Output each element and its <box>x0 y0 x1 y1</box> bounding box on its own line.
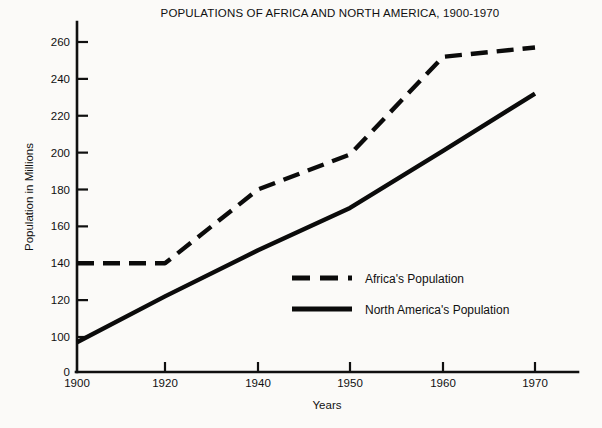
x-axis-ticks: 190019201940195019601970 <box>64 362 548 389</box>
x-tick-label-1940: 1940 <box>245 377 271 389</box>
y-tick-label-260: 260 <box>51 36 70 48</box>
x-tick-label-1960: 1960 <box>430 377 456 389</box>
y-tick-label-200: 200 <box>51 147 70 159</box>
x-tick-label-1970: 1970 <box>522 377 548 389</box>
series-line-africa <box>77 48 535 264</box>
y-tick-label-100: 100 <box>51 331 70 343</box>
y-tick-label-140: 140 <box>51 257 70 269</box>
y-tick-label-180: 180 <box>51 184 70 196</box>
population-line-chart: POPULATIONS OF AFRICA AND NORTH AMERICA,… <box>0 0 602 428</box>
chart-title: POPULATIONS OF AFRICA AND NORTH AMERICA,… <box>161 7 500 19</box>
y-tick-label-240: 240 <box>51 73 70 85</box>
legend-label-north-america: North America's Population <box>365 303 509 317</box>
x-tick-label-1950: 1950 <box>337 377 363 389</box>
chart-legend: Africa's PopulationNorth America's Popul… <box>292 272 509 317</box>
y-tick-label-160: 160 <box>51 220 70 232</box>
y-tick-label-120: 120 <box>51 294 70 306</box>
data-series-group <box>77 48 535 343</box>
y-axis-ticks: 0100120140160180200220240260 <box>51 36 88 378</box>
y-axis-label: Population in Millions <box>23 143 35 251</box>
y-tick-label-220: 220 <box>51 110 70 122</box>
legend-label-africa: Africa's Population <box>365 272 464 286</box>
chart-container: POPULATIONS OF AFRICA AND NORTH AMERICA,… <box>0 0 602 428</box>
x-tick-label-1920: 1920 <box>152 377 178 389</box>
x-axis-label: Years <box>313 399 342 411</box>
x-tick-label-1900: 1900 <box>64 377 90 389</box>
